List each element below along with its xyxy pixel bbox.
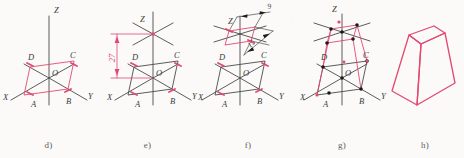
panel-e-drawing: 27 Z X Y O A B C D [97, 0, 198, 132]
tick-d [218, 63, 224, 66]
panel-g-caption: g) [298, 140, 386, 150]
panel-d-caption: d) [0, 140, 97, 150]
panel-e-caption: e) [97, 140, 198, 150]
panel-h-caption: h) [386, 140, 464, 150]
label-x: X [2, 92, 9, 102]
apex-ray-3 [153, 23, 173, 34]
label-c: C [70, 50, 76, 60]
panel-f-drawing: 9 15 Z X Y O A B C D [198, 0, 298, 132]
apex-ray-1 [133, 23, 153, 34]
x-axis [115, 78, 153, 100]
frustum-front-left-face [392, 35, 421, 105]
label-b: B [359, 96, 364, 106]
panel-d: Z X Y O A B C D d) [0, 0, 97, 158]
label-a: A [134, 99, 141, 109]
x-axis [202, 78, 240, 100]
panel-f: 9 15 Z X Y O A B C D f) [198, 0, 298, 158]
panel-e: 27 Z X Y O A B C D e) [97, 0, 198, 158]
dim-ext-a [255, 13, 263, 27]
label-a: A [30, 99, 37, 109]
figure-sheet: Z X Y O A B C D d) [0, 0, 464, 158]
tick-d [131, 63, 137, 66]
label-y: Y [88, 91, 94, 101]
label-o: O [52, 68, 58, 78]
panel-h: h) [386, 0, 464, 158]
apex-ray-4 [133, 34, 153, 45]
label-c: C [363, 50, 369, 60]
label-b: B [257, 96, 262, 106]
lateral-edge-b [353, 39, 361, 89]
label-z: Z [140, 14, 145, 24]
panel-f-caption: f) [198, 140, 298, 150]
dimension-value-upper: 9 [267, 1, 273, 11]
panel-g: Z X Y O A B C D g) [298, 0, 386, 158]
panel-h-drawing [386, 0, 464, 132]
label-o: O [156, 68, 162, 78]
label-b: B [170, 96, 175, 106]
label-b: B [66, 96, 71, 106]
x-axis [11, 78, 49, 100]
label-a: A [322, 99, 329, 109]
dimension-value: 27 [107, 53, 117, 62]
label-d: D [320, 52, 328, 62]
label-x: X [197, 92, 204, 102]
label-c: C [174, 50, 180, 60]
panel-d-drawing: Z X Y O A B C D [0, 0, 97, 132]
label-z: Z [228, 16, 233, 26]
label-d: D [218, 52, 226, 62]
label-d: D [131, 52, 139, 62]
x-axis [304, 78, 342, 100]
apex-ray-2 [153, 34, 173, 45]
label-x: X [299, 92, 306, 102]
label-x: X [106, 92, 113, 102]
frustum-front-right-face [417, 33, 455, 105]
label-d: D [27, 52, 35, 62]
tick-d [27, 63, 33, 66]
label-o: O [243, 68, 249, 78]
label-y: Y [279, 91, 285, 101]
label-a: A [221, 99, 228, 109]
label-z: Z [332, 4, 337, 14]
label-o: O [345, 68, 351, 78]
label-z: Z [54, 5, 59, 15]
label-c: C [261, 50, 267, 60]
panel-g-drawing: Z X Y O A B C D [298, 0, 386, 132]
